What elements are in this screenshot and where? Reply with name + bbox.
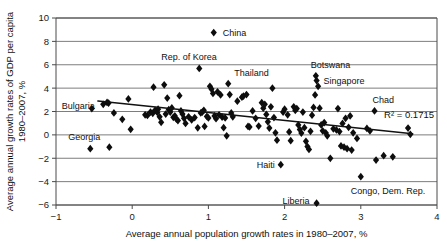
data-point	[256, 122, 262, 130]
data-point	[373, 156, 379, 164]
annotation-haiti: Haiti	[257, 160, 275, 170]
x-axis-title: Average annual population growth rates i…	[126, 228, 368, 239]
x-tick-label-4: 4	[434, 211, 439, 222]
annotation-rep-of-korea: Rep. of Korea	[161, 52, 217, 62]
x-tick-label-1: 1	[206, 211, 211, 222]
x-tick-label-2: 2	[282, 211, 287, 222]
y-axis-title-line-1: Average annual growth rates of GDP per c…	[4, 11, 15, 211]
r-squared-annotation: R² = 0.1715	[384, 109, 434, 120]
annotation-singapore: Singapore	[324, 76, 365, 86]
data-point	[150, 83, 156, 91]
point-annotations: ChinaRep. of KoreaThailandBotswanaSingap…	[62, 28, 426, 206]
x-tick-label-3: 3	[358, 211, 363, 222]
y-tick-label--2: −2	[38, 153, 49, 164]
data-point	[350, 129, 356, 137]
y-tick-label--4: −4	[38, 176, 49, 187]
data-point	[354, 135, 360, 143]
scatter-chart-figure: −6−4−20246810 −101234 ChinaRep. of Korea…	[0, 0, 447, 243]
r-squared-label: R² = 0.1715	[384, 109, 434, 120]
data-point	[128, 125, 134, 133]
x-tick-label--1: −1	[51, 211, 62, 222]
data-point	[358, 173, 364, 181]
data-point	[312, 91, 318, 99]
y-tick-label-4: 4	[44, 83, 49, 94]
annotation-botswana: Botswana	[311, 60, 351, 70]
annotation-china: China	[223, 28, 247, 38]
data-point	[196, 65, 202, 73]
y-tick-label-10: 10	[38, 12, 49, 23]
data-point	[106, 143, 112, 151]
y-tick-label-0: 0	[44, 129, 49, 140]
data-point	[266, 124, 272, 132]
annotation-georgia: Georgia	[68, 132, 100, 142]
data-points	[87, 29, 413, 207]
y-axis-title-line-2: 1980–2007, %	[16, 80, 27, 142]
data-point	[327, 154, 333, 162]
data-point	[161, 81, 167, 89]
data-point	[164, 94, 170, 102]
data-point	[390, 153, 396, 161]
data-point	[288, 137, 294, 145]
data-point	[234, 97, 240, 105]
x-tick-label-0: 0	[130, 211, 135, 222]
data-point	[224, 132, 230, 140]
data-point	[310, 104, 316, 112]
data-point	[227, 91, 233, 99]
data-point	[201, 123, 207, 131]
annotation-chad: Chad	[373, 95, 395, 105]
data-point	[307, 127, 313, 135]
data-point	[221, 124, 227, 132]
data-point	[309, 111, 315, 119]
data-point	[371, 107, 377, 115]
data-point	[268, 103, 274, 111]
data-point	[249, 107, 255, 115]
data-point	[125, 95, 131, 103]
data-point	[315, 82, 321, 90]
data-point	[317, 104, 323, 112]
data-point	[87, 145, 93, 153]
y-tick-label-8: 8	[44, 36, 49, 47]
data-point	[314, 199, 320, 207]
data-point	[225, 80, 231, 88]
x-axis-tick-labels: −101234	[51, 211, 440, 222]
data-point	[349, 146, 355, 154]
data-point	[211, 29, 217, 37]
y-tick-label--6: −6	[38, 199, 49, 210]
chart-canvas: −6−4−20246810 −101234 ChinaRep. of Korea…	[0, 0, 447, 243]
annotation-thailand: Thailand	[234, 68, 269, 78]
data-point	[272, 129, 278, 137]
data-point	[111, 109, 117, 117]
annotation-bulgaria: Bulgaria	[62, 101, 95, 111]
data-point	[269, 84, 275, 92]
y-axis-tick-labels: −6−4−20246810	[38, 12, 49, 210]
annotation-congo-dem-rep: Congo, Dem. Rep.	[351, 186, 426, 196]
data-point	[300, 108, 306, 116]
data-point	[278, 161, 284, 169]
data-point	[176, 92, 182, 100]
y-tick-label-2: 2	[44, 106, 49, 117]
data-point	[119, 115, 125, 123]
axis-ticks	[52, 18, 437, 209]
annotation-liberia: Liberia	[283, 196, 310, 206]
y-tick-label-6: 6	[44, 59, 49, 70]
data-point	[274, 136, 280, 144]
data-point	[195, 124, 201, 132]
